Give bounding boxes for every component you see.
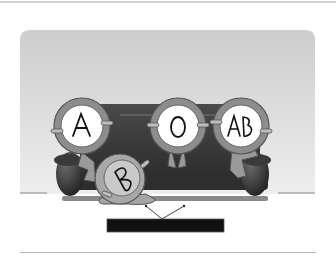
- bottom-divider: [20, 252, 316, 253]
- television: [107, 205, 224, 232]
- blood-type-illustration: [0, 0, 336, 258]
